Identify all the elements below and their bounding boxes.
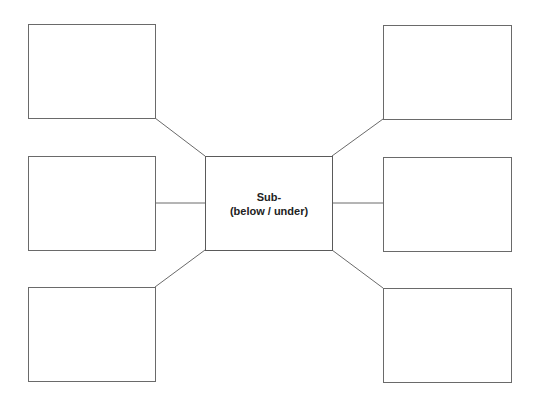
box-bottom-left[interactable]: [28, 287, 156, 382]
box-middle-right[interactable]: [383, 157, 512, 252]
box-middle-left[interactable]: [28, 156, 156, 251]
center-subtitle: (below / under): [230, 204, 308, 218]
connector-bottom-right: [332, 250, 383, 288]
box-top-right[interactable]: [383, 25, 512, 120]
center-box: Sub- (below / under): [205, 156, 333, 251]
connector-top-left: [155, 118, 205, 156]
box-top-left[interactable]: [28, 24, 156, 119]
word-web-diagram: Sub- (below / under): [0, 0, 536, 405]
center-title: Sub-: [257, 190, 281, 204]
connector-top-right: [332, 119, 383, 156]
box-bottom-right[interactable]: [383, 288, 512, 383]
connector-bottom-left: [155, 250, 205, 287]
